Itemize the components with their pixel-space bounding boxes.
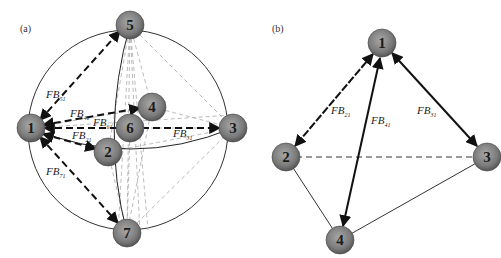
panel-b: (b) FB21 FB41 FB31 1 2 3 4	[272, 23, 501, 254]
edge-label-fb41: FB41	[69, 107, 89, 121]
svg-text:6: 6	[126, 120, 134, 136]
panel-b-feedback-edges	[295, 53, 477, 226]
svg-text:1: 1	[378, 35, 386, 51]
svg-text:2: 2	[282, 149, 290, 165]
svg-text:7: 7	[123, 225, 131, 241]
node-a-2: 2	[94, 138, 122, 166]
svg-text:4: 4	[148, 99, 156, 115]
svg-text:1: 1	[27, 120, 35, 136]
svg-text:2: 2	[104, 144, 112, 160]
edge-label-fb71: FB71	[45, 165, 65, 179]
edge-3-4	[340, 157, 487, 240]
edge-label-b-fb31: FB31	[416, 104, 436, 118]
edge-label-b-fb21: FB21	[330, 104, 350, 118]
svg-text:3: 3	[229, 120, 237, 136]
edge-label-fb31: FB31	[172, 127, 192, 141]
panel-b-nodes: 1 2 3 4	[272, 29, 501, 254]
panel-b-edge-labels: FB21 FB41 FB31	[330, 104, 436, 128]
node-b-2: 2	[272, 143, 300, 171]
node-a-5: 5	[116, 11, 144, 39]
node-b-1: 1	[368, 29, 396, 57]
edge-label-b-fb41: FB41	[370, 114, 390, 128]
diagram-canvas: (a)	[0, 0, 501, 258]
svg-text:5: 5	[126, 17, 134, 33]
node-a-6: 6	[116, 114, 144, 142]
panel-a-label: (a)	[20, 23, 31, 35]
node-a-4: 4	[138, 93, 166, 121]
node-a-1: 1	[17, 114, 45, 142]
panel-a: (a)	[17, 11, 247, 247]
node-a-3: 3	[219, 114, 247, 142]
edge-2-4	[286, 157, 340, 240]
edge-label-fb21: FB21	[71, 129, 91, 143]
panel-b-label: (b)	[272, 23, 284, 35]
node-b-4: 4	[326, 226, 354, 254]
node-a-7: 7	[113, 219, 141, 247]
node-b-3: 3	[473, 143, 501, 171]
svg-text:3: 3	[483, 149, 491, 165]
svg-text:4: 4	[336, 232, 344, 248]
